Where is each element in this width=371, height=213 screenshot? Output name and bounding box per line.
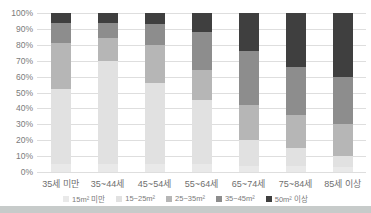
y-axis-label: 0% bbox=[0, 168, 33, 176]
bar-segment bbox=[286, 148, 306, 165]
bar-segment bbox=[98, 38, 118, 60]
bar-segment bbox=[286, 13, 306, 67]
y-axis-label: 40% bbox=[0, 104, 33, 112]
legend-label: 15m² 미만 bbox=[72, 193, 105, 204]
bar-segment bbox=[333, 13, 353, 77]
legend-label: 35~45m² bbox=[225, 194, 255, 203]
bar-segment bbox=[145, 164, 165, 172]
x-axis-label: 35~44세 bbox=[84, 177, 131, 190]
bottom-edge-strip bbox=[0, 206, 371, 213]
bar-segment bbox=[145, 13, 165, 24]
gridline bbox=[37, 172, 366, 173]
legend-item: 50m² 이상 bbox=[266, 193, 308, 204]
x-axis-label: 35세 미만 bbox=[37, 177, 84, 190]
y-axis-label: 30% bbox=[0, 120, 33, 128]
bar-group bbox=[98, 13, 118, 172]
plot-area bbox=[37, 13, 366, 172]
bar-group bbox=[145, 13, 165, 172]
chart-container: 0%10%20%30%40%50%60%70%80%90%100% 35세 미만… bbox=[0, 0, 371, 213]
bar-segment bbox=[286, 67, 306, 115]
y-axis-label: 80% bbox=[0, 41, 33, 49]
bar-segment bbox=[98, 13, 118, 23]
legend: 15m² 미만15~25m²25~35m²35~45m²50m² 이상 bbox=[0, 193, 371, 204]
legend-label: 25~35m² bbox=[175, 194, 205, 203]
bar-segment bbox=[98, 23, 118, 39]
x-axis-label: 55~64세 bbox=[178, 177, 225, 190]
y-axis-label: 100% bbox=[0, 9, 33, 17]
bar-segment bbox=[51, 43, 71, 89]
bar-segment bbox=[333, 156, 353, 167]
bar-segment bbox=[51, 13, 71, 23]
bar-segment bbox=[51, 164, 71, 172]
legend-swatch bbox=[216, 196, 222, 202]
bar-segment bbox=[192, 13, 212, 32]
bar-group bbox=[192, 13, 212, 172]
x-axis-label: 45~54세 bbox=[131, 177, 178, 190]
y-axis-label: 60% bbox=[0, 73, 33, 81]
bar-group bbox=[286, 13, 306, 172]
x-axis-label: 75~84세 bbox=[272, 177, 319, 190]
x-axis-label: 65~74세 bbox=[225, 177, 272, 190]
y-axis-label: 70% bbox=[0, 57, 33, 65]
legend-swatch bbox=[266, 196, 272, 202]
bar-segment bbox=[286, 115, 306, 148]
bar-segment bbox=[239, 51, 259, 105]
bar-segment bbox=[192, 164, 212, 172]
legend-label: 50m² 이상 bbox=[275, 193, 308, 204]
bar-segment bbox=[98, 61, 118, 164]
legend-item: 35~45m² bbox=[216, 194, 255, 203]
legend-item: 15m² 미만 bbox=[63, 193, 105, 204]
bar-segment bbox=[333, 77, 353, 125]
bar-segment bbox=[239, 140, 259, 165]
y-axis-label: 10% bbox=[0, 152, 33, 160]
legend-item: 15~25m² bbox=[116, 194, 155, 203]
bar-segment bbox=[286, 166, 306, 172]
legend-swatch bbox=[63, 196, 69, 202]
bar-segment bbox=[239, 166, 259, 172]
bar-group bbox=[333, 13, 353, 172]
bar-segment bbox=[51, 23, 71, 44]
bar-segment bbox=[192, 100, 212, 164]
legend-item: 25~35m² bbox=[166, 194, 205, 203]
bar-segment bbox=[333, 124, 353, 156]
bar-segment bbox=[192, 32, 212, 70]
bar-segment bbox=[145, 45, 165, 83]
bar-group bbox=[51, 13, 71, 172]
bar-segment bbox=[145, 83, 165, 164]
bar-segment bbox=[145, 24, 165, 45]
y-axis-label: 90% bbox=[0, 25, 33, 33]
bar-segment bbox=[192, 70, 212, 100]
y-axis-label: 50% bbox=[0, 89, 33, 97]
bar-segment bbox=[239, 13, 259, 51]
bar-segment bbox=[98, 164, 118, 172]
bar-segment bbox=[333, 167, 353, 172]
legend-label: 15~25m² bbox=[125, 194, 155, 203]
bar-segment bbox=[51, 89, 71, 164]
y-axis-label: 20% bbox=[0, 136, 33, 144]
legend-swatch bbox=[116, 196, 122, 202]
x-axis-label: 85세 이상 bbox=[319, 177, 366, 190]
legend-swatch bbox=[166, 196, 172, 202]
bar-group bbox=[239, 13, 259, 172]
bar-segment bbox=[239, 105, 259, 140]
